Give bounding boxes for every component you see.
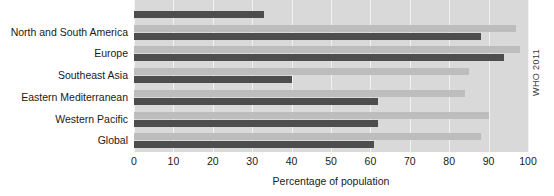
x-tick-label-10: 10 <box>168 155 180 167</box>
category-label: Southeast Asia <box>0 69 128 81</box>
source-credit: WHO 2011 <box>531 49 541 96</box>
category-label: Western Pacific <box>0 113 128 125</box>
x-tick-label-40: 40 <box>286 155 298 167</box>
x-tick-label-20: 20 <box>207 155 219 167</box>
x-tick-label-70: 70 <box>404 155 416 167</box>
x-tick-label-100: 100 <box>519 155 537 167</box>
x-axis: 0102030405060708090100 <box>134 152 528 172</box>
category-label: Global <box>0 134 128 146</box>
x-tick-label-0: 0 <box>131 155 137 167</box>
category-label: Eastern Mediterranean <box>0 91 128 103</box>
x-tick-label-80: 80 <box>443 155 455 167</box>
category-label: North and South America <box>0 26 128 38</box>
x-axis-title: Percentage of population <box>134 175 528 187</box>
x-tick-label-50: 50 <box>325 155 337 167</box>
bar-chart: Water Sanitation North and South America… <box>0 0 554 196</box>
x-tick-label-60: 60 <box>365 155 377 167</box>
x-tick-label-30: 30 <box>246 155 258 167</box>
x-tick-label-90: 90 <box>483 155 495 167</box>
category-label: Europe <box>0 47 128 59</box>
category-labels: North and South AmericaEuropeSoutheast A… <box>0 0 554 152</box>
